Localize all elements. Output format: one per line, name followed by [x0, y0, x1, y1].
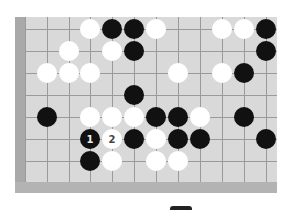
- white-stone[interactable]: [102, 151, 122, 171]
- black-stone[interactable]: [234, 63, 254, 83]
- white-stone[interactable]: [37, 63, 57, 83]
- partial-element-bottom: [170, 206, 192, 210]
- white-stone[interactable]: [59, 41, 79, 61]
- black-stone[interactable]: [168, 107, 188, 127]
- grid-line-vertical: [47, 17, 48, 182]
- black-stone[interactable]: [102, 19, 122, 39]
- black-stone[interactable]: [80, 151, 100, 171]
- grid-line-horizontal: [25, 95, 277, 96]
- white-stone[interactable]: [124, 107, 144, 127]
- white-stone[interactable]: [146, 129, 166, 149]
- grid-line-vertical: [25, 17, 26, 182]
- black-stone[interactable]: 1: [80, 129, 100, 149]
- black-stone[interactable]: [168, 129, 188, 149]
- black-stone[interactable]: [256, 19, 276, 39]
- white-stone[interactable]: [146, 151, 166, 171]
- white-stone[interactable]: [80, 107, 100, 127]
- grid-line-vertical: [244, 17, 245, 182]
- white-stone[interactable]: [80, 63, 100, 83]
- black-stone[interactable]: [234, 107, 254, 127]
- white-stone[interactable]: [234, 19, 254, 39]
- black-stone[interactable]: [37, 107, 57, 127]
- white-stone[interactable]: [190, 107, 210, 127]
- white-stone[interactable]: [212, 63, 232, 83]
- white-stone[interactable]: [146, 19, 166, 39]
- black-stone[interactable]: [190, 129, 210, 149]
- white-stone[interactable]: [80, 19, 100, 39]
- black-stone[interactable]: [256, 41, 276, 61]
- white-stone[interactable]: [168, 63, 188, 83]
- black-stone[interactable]: [124, 129, 144, 149]
- board-edge-left: [15, 17, 25, 193]
- board-edge-bottom: [15, 182, 277, 193]
- go-board[interactable]: [15, 17, 277, 193]
- black-stone[interactable]: [256, 129, 276, 149]
- white-stone[interactable]: [212, 19, 232, 39]
- white-stone[interactable]: [168, 151, 188, 171]
- black-stone[interactable]: [146, 107, 166, 127]
- white-stone[interactable]: [59, 63, 79, 83]
- black-stone[interactable]: [124, 85, 144, 105]
- black-stone[interactable]: [124, 19, 144, 39]
- grid-line-vertical: [200, 17, 201, 182]
- white-stone[interactable]: [102, 41, 122, 61]
- grid-line-vertical: [222, 17, 223, 182]
- black-stone[interactable]: [124, 41, 144, 61]
- white-stone[interactable]: [102, 107, 122, 127]
- white-stone[interactable]: 2: [102, 129, 122, 149]
